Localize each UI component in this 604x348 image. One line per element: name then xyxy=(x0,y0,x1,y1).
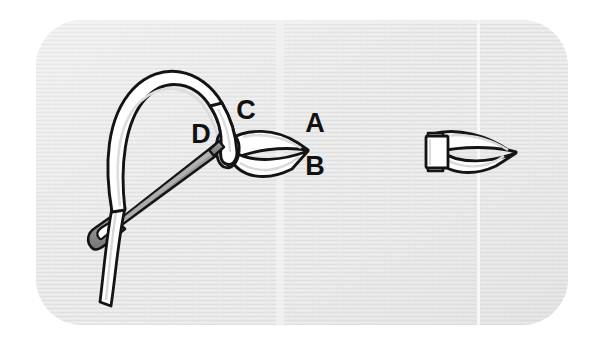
panel-top-sheen xyxy=(36,20,568,24)
label-a: A xyxy=(305,108,325,138)
label-c: C xyxy=(236,95,256,125)
figure-root: A B C D xyxy=(0,0,604,348)
label-b: B xyxy=(305,151,325,181)
label-d: D xyxy=(191,119,211,149)
background-panel xyxy=(0,0,604,348)
illustration-canvas: A B C D xyxy=(0,0,604,348)
